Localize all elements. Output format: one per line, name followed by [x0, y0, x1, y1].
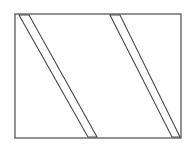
figure-container: Parallel slanted stripes inside a rectan… [0, 0, 195, 148]
line-drawing-canvas [0, 0, 195, 148]
outer-rectangle [15, 14, 181, 138]
